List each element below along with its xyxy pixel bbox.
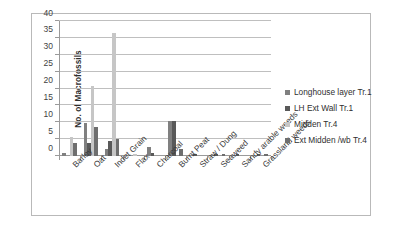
legend: Longhouse layer Tr.1LH Ext Wall Tr.1Midd… xyxy=(285,84,373,148)
chart-container: No. of Macrofossils 0510152025303540 Bar… xyxy=(31,13,371,216)
legend-item[interactable]: Longhouse layer Tr.1 xyxy=(285,84,373,100)
legend-swatch-icon xyxy=(285,138,290,143)
bar-group xyxy=(144,21,165,156)
bar xyxy=(116,139,120,156)
bar xyxy=(94,127,98,156)
bar-group xyxy=(59,21,80,156)
y-axis-tick-label: 40 xyxy=(44,8,53,17)
y-axis-tick-label: 10 xyxy=(44,110,53,119)
x-axis-tick xyxy=(59,156,60,160)
legend-item-label: Ext Midden /wb Tr.4 xyxy=(294,136,367,144)
legend-item-label: Midden Tr.4 xyxy=(294,120,337,128)
legend-item-label: Longhouse layer Tr.1 xyxy=(294,88,372,96)
bar-group xyxy=(165,21,186,156)
y-axis-tick-label: 0 xyxy=(48,143,53,152)
bar xyxy=(112,33,116,156)
y-axis-tick-label: 35 xyxy=(44,25,53,34)
legend-swatch-icon xyxy=(285,90,290,95)
bars-layer xyxy=(59,21,271,156)
bar xyxy=(73,143,77,156)
plot-area: No. of Macrofossils 0510152025303540 Bar… xyxy=(59,21,271,156)
legend-item-label: LH Ext Wall Tr.1 xyxy=(294,104,353,112)
legend-swatch-icon xyxy=(285,122,290,127)
legend-item[interactable]: Ext Midden /wb Tr.4 xyxy=(285,132,373,148)
bar-group xyxy=(101,21,122,156)
legend-item[interactable]: LH Ext Wall Tr.1 xyxy=(285,100,373,116)
y-axis-tick-label: 15 xyxy=(44,93,53,102)
bar-group xyxy=(80,21,101,156)
y-axis-tick-label: 5 xyxy=(48,126,53,135)
y-axis-tick-label: 20 xyxy=(44,76,53,85)
y-axis-tick-label: 25 xyxy=(44,59,53,68)
legend-swatch-icon xyxy=(285,106,290,111)
legend-item[interactable]: Midden Tr.4 xyxy=(285,116,373,132)
y-axis-tick-label: 30 xyxy=(44,42,53,51)
